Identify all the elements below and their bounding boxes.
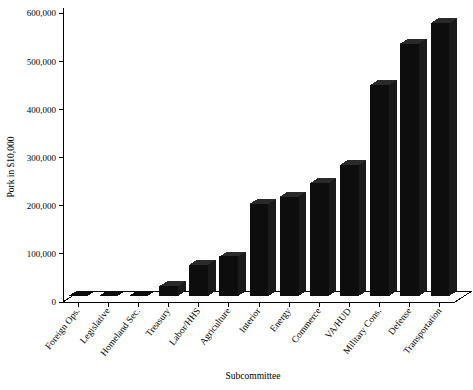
x-axis-category-label: Foreign Ops. — [43, 306, 81, 351]
y-axis-tick-label: 400,000 — [27, 105, 57, 115]
x-axis-category-label: Agriculture — [198, 306, 233, 347]
x-axis-category-labels: Foreign Ops.LegislativeHomeland Sec.Trea… — [43, 305, 443, 358]
x-axis-title: Subcommittee — [226, 371, 281, 381]
y-axis-tick-label: 0 — [52, 297, 57, 307]
bar-front-face — [159, 286, 178, 296]
x-axis-category-label: Treasury — [144, 306, 173, 339]
y-axis-tick-label: 500,000 — [27, 57, 57, 67]
bar — [400, 39, 426, 296]
x-axis-category-label: Defense — [386, 306, 413, 337]
bar — [340, 160, 366, 296]
bar — [219, 252, 245, 296]
y-axis-tick-label: 300,000 — [27, 153, 57, 163]
bar — [431, 18, 457, 296]
y-axis-tick-label: 600,000 — [27, 8, 57, 18]
bar-side-face — [299, 192, 307, 296]
bar-front-face — [189, 265, 208, 296]
bar — [280, 192, 306, 296]
x-axis-category-label: Energy — [268, 306, 293, 334]
bar — [250, 199, 276, 296]
bar-front-face — [250, 204, 269, 296]
bar-side-face — [238, 252, 246, 296]
bar-front-face — [370, 85, 389, 296]
x-axis-category-label: VA/HUD — [323, 306, 353, 340]
y-axis-title: Pork in $10,000 — [6, 136, 16, 197]
chart-bars — [69, 18, 457, 296]
y-axis-tick-labels: 0100,000200,000300,000400,000500,000600,… — [27, 8, 57, 307]
bar-chart: 0100,000200,000300,000400,000500,000600,… — [0, 0, 473, 390]
bar — [189, 260, 215, 296]
bar-front-face — [431, 23, 450, 296]
bar-front-face — [340, 165, 359, 296]
bar-side-face — [419, 39, 427, 296]
bar-side-face — [359, 160, 367, 296]
chart-canvas: 0100,000200,000300,000400,000500,000600,… — [0, 0, 473, 390]
bar — [310, 178, 336, 296]
bar-front-face — [280, 197, 299, 296]
bar-side-face — [449, 18, 457, 296]
bar — [370, 80, 396, 296]
x-axis-category-label: Commerce — [289, 306, 323, 345]
bar-front-face — [400, 44, 419, 296]
bar-side-face — [329, 178, 337, 296]
y-axis-tick-label: 100,000 — [27, 249, 57, 259]
bar-side-face — [208, 260, 216, 296]
x-axis-category-label: Interior — [237, 305, 263, 334]
bar-side-face — [389, 80, 397, 296]
bar-front-face — [219, 256, 238, 295]
bar-side-face — [268, 199, 276, 296]
bar-front-face — [310, 183, 329, 296]
y-axis-tick-label: 200,000 — [27, 201, 57, 211]
